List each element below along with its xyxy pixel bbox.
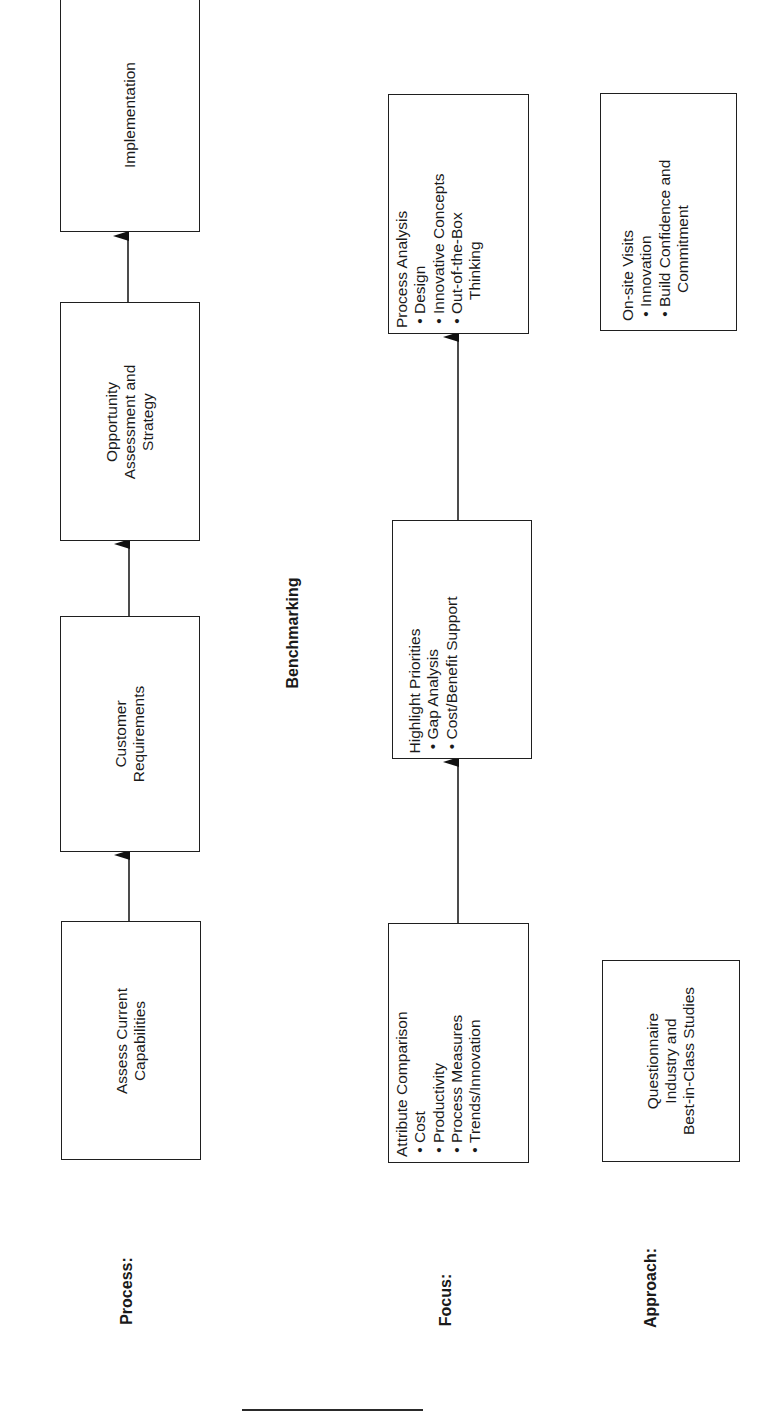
process-box-implementation: Implementation — [60, 0, 200, 232]
focus-box-process-analysis: Process Analysis • Design • Innovative C… — [388, 94, 529, 334]
row-label-approach: Approach: — [642, 1248, 660, 1328]
footnote-divider — [242, 1409, 423, 1411]
box-line: Assessment and — [121, 364, 139, 479]
approach-box-questionnaire: Questionnaire Industry and Best-in-Class… — [602, 960, 740, 1162]
bullet-item: • Innovative Concepts — [429, 174, 447, 328]
box-heading: Process Analysis — [392, 211, 410, 328]
box-line: Best-in-Class Studies — [680, 987, 698, 1135]
bullet-item: • Innovation — [636, 235, 654, 321]
bullet-item: • Build Confidence and — [655, 160, 673, 321]
bullet-icon: • — [429, 314, 447, 328]
box-heading: Attribute Comparison — [392, 1011, 410, 1157]
bullet-item: • Out-of-the-Box — [447, 212, 465, 328]
bullet-icon: • — [410, 1143, 428, 1157]
bullet-icon: • — [655, 307, 673, 321]
bullet-item: • Cost — [410, 1111, 428, 1157]
bullet-icon: • — [429, 1143, 447, 1157]
diagram-title: Benchmarking — [284, 577, 302, 688]
bullet-icon: • — [447, 1143, 465, 1157]
bullet-item: • Productivity — [429, 1063, 447, 1157]
process-box-assess-capabilities-text: Assess Current Capabilities — [61, 921, 201, 1160]
bullet-icon: • — [410, 314, 428, 328]
bullet-icon: • — [447, 314, 465, 328]
box-line: Strategy — [139, 393, 157, 451]
box-line: Implementation — [121, 62, 139, 168]
box-heading: Highlight Priorities — [406, 628, 424, 753]
bullet-icon: • — [424, 739, 442, 753]
approach-box-questionnaire-text: Questionnaire Industry and Best-in-Class… — [602, 960, 740, 1162]
process-box-opportunity: Opportunity Assessment and Strategy — [60, 302, 200, 541]
approach-box-onsite-visits-text: On-site Visits • Innovation • Build Conf… — [600, 93, 737, 331]
focus-box-process-analysis-text: Process Analysis • Design • Innovative C… — [388, 94, 529, 334]
focus-box-attribute-comparison-text: Attribute Comparison • Cost • Productivi… — [388, 923, 529, 1163]
process-box-implementation-text: Implementation — [60, 0, 200, 232]
bullet-icon: • — [636, 307, 654, 321]
process-box-assess-capabilities: Assess Current Capabilities — [61, 921, 201, 1160]
box-line: Questionnaire — [644, 1013, 662, 1110]
process-box-customer-requirements-text: Customer Requirements — [60, 616, 200, 852]
bullet-item: • Cost/Benefit Support — [443, 596, 461, 753]
focus-box-highlight-priorities: Highlight Priorities • Gap Analysis • Co… — [392, 520, 532, 759]
bullet-item: • Process Measures — [447, 1015, 465, 1157]
box-line: Customer — [112, 700, 130, 767]
process-box-customer-requirements: Customer Requirements — [60, 616, 200, 852]
bullet-item: • Gap Analysis — [424, 649, 442, 753]
bullet-icon: • — [443, 739, 461, 753]
box-heading: On-site Visits — [618, 230, 636, 321]
approach-box-onsite-visits: On-site Visits • Innovation • Build Conf… — [600, 93, 737, 331]
box-line: Industry and — [662, 1018, 680, 1103]
bullet-icon: • — [465, 1143, 483, 1157]
bullet-item: • Trends/Innovation — [465, 1019, 483, 1157]
box-line: Opportunity — [103, 381, 121, 461]
bullet-item: • Design — [410, 266, 428, 328]
box-line: Capabilities — [131, 1000, 149, 1080]
box-line: Requirements — [130, 686, 148, 783]
focus-box-attribute-comparison: Attribute Comparison • Cost • Productivi… — [388, 923, 529, 1163]
row-label-focus: Focus: — [437, 1274, 455, 1326]
bullet-continuation: Thinking — [465, 241, 483, 328]
box-line: Assess Current — [113, 988, 131, 1094]
bullet-continuation: Commitment — [673, 205, 691, 321]
row-label-process: Process: — [118, 1257, 136, 1325]
focus-box-highlight-priorities-text: Highlight Priorities • Gap Analysis • Co… — [392, 520, 532, 759]
process-box-opportunity-text: Opportunity Assessment and Strategy — [60, 302, 200, 541]
